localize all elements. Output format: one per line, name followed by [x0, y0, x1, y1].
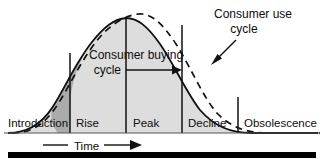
consumer-use-cycle-label-line1: Consumer use [214, 7, 292, 21]
consumer-buying-cycle-label-line2: cycle [94, 63, 122, 77]
consumer-buying-cycle-label-line1: Consumer buying [89, 48, 183, 62]
footer-bar [8, 152, 316, 158]
stage-label-decline: Decline [188, 117, 226, 129]
product-life-cycle-diagram: Introduction Rise Peak Decline Obsolesce… [0, 0, 324, 159]
diagram-root: Introduction Rise Peak Decline Obsolesce… [0, 0, 324, 159]
consumer-use-cycle-label-line2: cycle [230, 22, 258, 36]
stage-label-peak: Peak [133, 117, 159, 129]
stage-label-obsolescence: Obsolescence [244, 117, 317, 129]
stage-label-introduction: Introduction [8, 117, 68, 129]
time-axis-label: Time [74, 140, 99, 152]
stage-label-rise: Rise [76, 117, 99, 129]
